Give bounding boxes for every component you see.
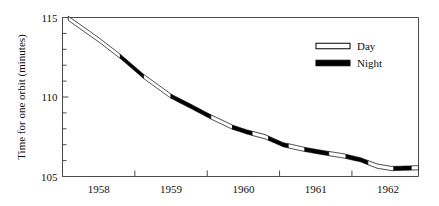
y-tick-label: 105 [41, 171, 58, 183]
y-axis-title: Time for one orbit (minutes) [15, 34, 28, 160]
legend-label-day: Day [357, 40, 376, 52]
series-segment-night [394, 166, 411, 171]
x-tick-label: 1959 [160, 183, 183, 195]
legend-swatch-night [316, 60, 350, 66]
series-segment-day [411, 166, 418, 170]
x-tick-label: 1960 [232, 183, 255, 195]
legend-swatch-day [316, 43, 350, 49]
x-tick-label: 1961 [305, 183, 327, 195]
x-tick-label: 1962 [377, 183, 399, 195]
chart-figure: 115110105 19581959196019611962 Time for … [0, 0, 439, 206]
x-tick-label: 1958 [88, 183, 111, 195]
y-tick-label: 115 [41, 12, 58, 24]
legend-label-night: Night [357, 57, 382, 69]
y-tick-label: 110 [41, 91, 58, 103]
chart-background [0, 0, 439, 206]
orbital-period-chart: 115110105 19581959196019611962 Time for … [0, 0, 439, 206]
